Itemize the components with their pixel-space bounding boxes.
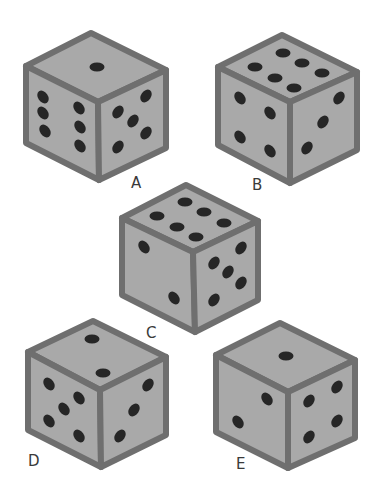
die-label-b: B xyxy=(252,176,262,194)
pip-icon xyxy=(85,335,100,344)
die-a xyxy=(26,33,166,180)
die-label-d: D xyxy=(28,452,40,470)
pip-icon xyxy=(279,352,294,361)
die-label-e: E xyxy=(236,455,245,473)
pip-icon xyxy=(248,63,263,72)
pip-icon xyxy=(189,233,204,242)
pip-icon xyxy=(287,84,302,93)
pip-icon xyxy=(217,219,232,228)
pip-icon xyxy=(150,212,165,221)
die-d xyxy=(28,321,166,467)
die-label-c: C xyxy=(146,324,156,342)
pip-icon xyxy=(276,49,291,58)
pip-icon xyxy=(170,223,185,232)
pip-icon xyxy=(96,369,111,378)
pip-icon xyxy=(90,63,105,72)
die-b xyxy=(218,35,357,183)
die-c xyxy=(122,185,258,332)
dice-canvas xyxy=(0,0,378,497)
pip-icon xyxy=(268,74,283,83)
pip-icon xyxy=(197,208,212,217)
pip-icon xyxy=(295,59,310,68)
die-e xyxy=(216,323,355,468)
pip-icon xyxy=(315,69,330,78)
pip-icon xyxy=(178,198,193,207)
die-label-a: A xyxy=(131,174,141,192)
